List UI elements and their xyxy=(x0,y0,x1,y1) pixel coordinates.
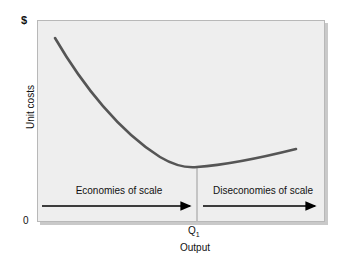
chart-graphics xyxy=(0,0,351,265)
economies-of-scale-label: Economies of scale xyxy=(45,186,193,196)
chart-figure: $ 0 Unit costs Economies of scale Diseco… xyxy=(0,0,351,265)
y-axis-currency-symbol: $ xyxy=(21,15,27,26)
average-cost-curve xyxy=(55,38,296,167)
q1-letter: Q xyxy=(188,225,196,236)
y-axis-title: Unit costs xyxy=(26,72,36,142)
diseconomies-of-scale-label: Diseconomies of scale xyxy=(202,186,324,196)
x-axis-title: Output xyxy=(160,243,230,253)
q1-subscript: 1 xyxy=(196,231,200,238)
x-axis-q1-tick-label: Q1 xyxy=(188,226,200,238)
y-axis-origin-label: 0 xyxy=(23,216,29,226)
